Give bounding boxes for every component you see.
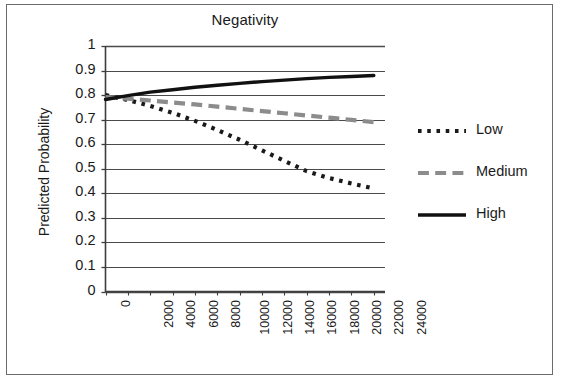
y-tick-label: 0.8 [54,85,96,101]
y-tick-label: 0.3 [54,208,96,224]
y-tick-label: 0.6 [54,134,96,150]
y-tick-label: 0 [54,282,96,298]
x-tick-label: 10000 [258,300,272,335]
data-series-layer [106,75,374,188]
y-tick-label: 0.9 [54,61,96,77]
y-tick-label: 0.2 [54,232,96,248]
series-line-low [106,95,374,188]
x-tick-label: 4000 [184,300,198,328]
y-tick-label: 0.1 [54,257,96,273]
series-line-medium [106,97,374,122]
y-tick-label: 1 [54,36,96,52]
legend-marks [418,131,466,215]
y-tick-label: 0.5 [54,159,96,175]
chart-figure: Negativity Predicted Probability 00.10.2… [0,0,561,382]
x-tick-label: 14000 [303,300,317,335]
x-tick-label: 2000 [162,300,176,328]
x-tick-label: 24000 [415,300,429,335]
x-tick-label: 12000 [280,300,294,335]
x-tick-label: 22000 [392,300,406,335]
x-tick-label: 20000 [370,300,384,335]
x-tick-label: 16000 [325,300,339,335]
legend-label-high: High [476,205,506,221]
y-tick-label: 0.4 [54,183,96,199]
legend-label-medium: Medium [476,163,528,179]
x-tick-label: 18000 [348,300,362,335]
legend-label-low: Low [476,121,503,137]
y-tick-label: 0.7 [54,110,96,126]
x-tick-label: 6000 [206,300,220,328]
x-tick-label: 0 [118,300,132,307]
x-tick-label: 8000 [229,300,243,328]
